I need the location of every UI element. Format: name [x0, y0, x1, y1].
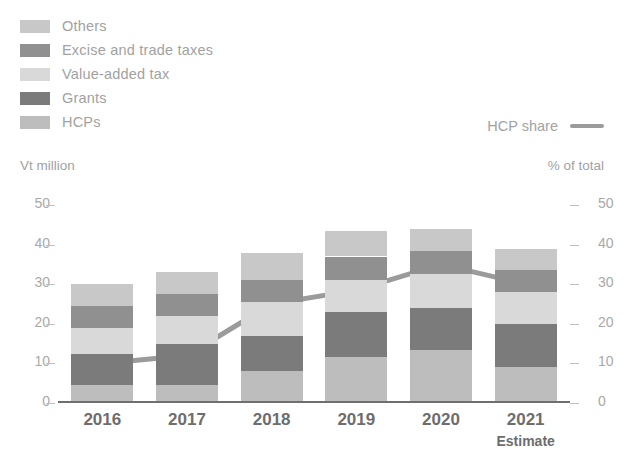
- x-axis-year: 2018: [230, 408, 314, 432]
- x-axis-year: 2017: [145, 408, 229, 432]
- bar-segment-2019-hcps: [325, 357, 387, 403]
- bar-segment-2016-value-added-tax: [71, 328, 133, 354]
- bar-segment-2018-excise-and-trade-taxes: [241, 280, 303, 302]
- bar-2016: [71, 205, 133, 403]
- axis-tick-mark: [570, 324, 579, 325]
- axis-tick-mark: [46, 403, 55, 404]
- bar-segment-2016-excise-and-trade-taxes: [71, 306, 133, 328]
- legend-swatch-grants: [20, 92, 50, 105]
- legend-item-others: Others: [20, 14, 213, 38]
- bar-segment-2020-others: [410, 229, 472, 251]
- axis-tick-mark: [46, 205, 55, 206]
- bar-segment-2021-value-added-tax: [495, 292, 557, 324]
- bar-segment-2017-excise-and-trade-taxes: [156, 294, 218, 316]
- bar-segment-2020-grants: [410, 308, 472, 350]
- bar-segment-2018-hcps: [241, 371, 303, 403]
- bar-segment-2017-value-added-tax: [156, 316, 218, 344]
- axis-tick-mark: [46, 245, 55, 246]
- axis-tick-mark: [570, 245, 579, 246]
- legend-item-hcps: HCPs: [20, 110, 213, 134]
- legend-item-value-added-tax: Value-added tax: [20, 62, 213, 86]
- x-axis-label-2020: 2020: [399, 408, 483, 432]
- right-axis-tick-30: 30: [576, 274, 616, 290]
- bar-2018: [241, 205, 303, 403]
- x-axis-label-2021: 2021Estimate: [484, 408, 568, 451]
- legend-swatch-excise-and-trade-taxes: [20, 44, 50, 57]
- bar-segment-2021-grants: [495, 324, 557, 368]
- left-axis-caption: Vt million: [20, 158, 75, 173]
- bar-segment-2016-grants: [71, 354, 133, 386]
- legend-label-hcps: HCPs: [62, 114, 101, 130]
- x-axis-label-2017: 2017: [145, 408, 229, 432]
- legend-item-hcp-share: HCP share: [487, 118, 604, 134]
- legend-swatch-hcps: [20, 116, 50, 129]
- left-axis-tick-30: 30: [10, 274, 50, 290]
- legend-label-hcp-share: HCP share: [487, 118, 558, 134]
- x-axis-year: 2019: [314, 408, 398, 432]
- legend-label-excise-and-trade-taxes: Excise and trade taxes: [62, 42, 213, 58]
- x-axis-year: 2020: [399, 408, 483, 432]
- left-axis-tick-0: 0: [10, 393, 50, 409]
- right-axis-tick-20: 20: [576, 314, 616, 330]
- legend-label-grants: Grants: [62, 90, 107, 106]
- bar-segment-2020-hcps: [410, 350, 472, 403]
- bar-segment-2019-grants: [325, 312, 387, 358]
- legend-swatch-value-added-tax: [20, 68, 50, 81]
- x-axis-sublabel: Estimate: [484, 432, 568, 451]
- bar-segment-2016-others: [71, 284, 133, 306]
- left-axis-tick-20: 20: [10, 314, 50, 330]
- right-axis-tick-40: 40: [576, 235, 616, 251]
- right-axis-tick-50: 50: [576, 195, 616, 211]
- bar-segment-2021-hcps: [495, 367, 557, 403]
- bar-segment-2021-excise-and-trade-taxes: [495, 270, 557, 292]
- axis-tick-mark: [570, 284, 579, 285]
- axis-tick-mark: [570, 205, 579, 206]
- bar-segment-2017-others: [156, 272, 218, 294]
- bar-segment-2018-value-added-tax: [241, 302, 303, 336]
- legend-swatch-others: [20, 20, 50, 33]
- axis-tick-mark: [570, 363, 579, 364]
- x-axis-year: 2016: [60, 408, 144, 432]
- bar-2019: [325, 205, 387, 403]
- legend: Others Excise and trade taxes Value-adde…: [20, 14, 213, 134]
- bar-segment-2017-grants: [156, 344, 218, 386]
- bar-segment-2019-value-added-tax: [325, 280, 387, 312]
- bar-segment-2020-excise-and-trade-taxes: [410, 251, 472, 275]
- hcp-share-line: [60, 205, 568, 403]
- axis-tick-mark: [46, 324, 55, 325]
- bar-segment-2020-value-added-tax: [410, 274, 472, 308]
- axis-tick-mark: [46, 284, 55, 285]
- left-axis-tick-40: 40: [10, 235, 50, 251]
- x-axis-baseline: [58, 401, 570, 403]
- bar-2020: [410, 205, 472, 403]
- left-axis-tick-10: 10: [10, 353, 50, 369]
- bar-segment-2021-others: [495, 249, 557, 271]
- x-axis-year: 2021: [484, 408, 568, 432]
- left-axis-tick-50: 50: [10, 195, 50, 211]
- bar-segment-2019-others: [325, 231, 387, 257]
- chart-page: Others Excise and trade taxes Value-adde…: [0, 0, 626, 465]
- legend-label-others: Others: [62, 18, 107, 34]
- axis-tick-mark: [570, 403, 579, 404]
- right-axis-tick-0: 0: [576, 393, 616, 409]
- legend-line-swatch-hcp-share: [570, 124, 604, 128]
- legend-label-value-added-tax: Value-added tax: [62, 66, 170, 82]
- legend-item-grants: Grants: [20, 86, 213, 110]
- bar-2017: [156, 205, 218, 403]
- x-axis-labels: 201620172018201920202021Estimate: [60, 408, 568, 463]
- axis-tick-mark: [46, 363, 55, 364]
- x-axis-label-2016: 2016: [60, 408, 144, 432]
- legend-item-excise-and-trade-taxes: Excise and trade taxes: [20, 38, 213, 62]
- bar-segment-2018-grants: [241, 336, 303, 372]
- bar-segment-2018-others: [241, 253, 303, 281]
- bar-segment-2019-excise-and-trade-taxes: [325, 257, 387, 281]
- bar-2021: [495, 205, 557, 403]
- right-axis-tick-10: 10: [576, 353, 616, 369]
- right-axis-caption: % of total: [548, 158, 604, 173]
- plot-area: [60, 205, 568, 403]
- x-axis-label-2018: 2018: [230, 408, 314, 432]
- x-axis-label-2019: 2019: [314, 408, 398, 432]
